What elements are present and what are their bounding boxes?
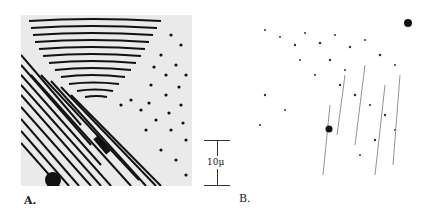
micrograph-a-image <box>21 15 192 186</box>
panel-b-label: B. <box>239 192 251 205</box>
panel-a-label: A. <box>24 194 36 207</box>
scale-bar-label: 10μ <box>207 157 224 167</box>
micrograph-panel-b <box>245 15 415 186</box>
scale-bar-upper-line <box>217 141 218 156</box>
scale-bar: 10μ <box>204 140 230 186</box>
scale-bar-bottom-tick <box>204 185 230 186</box>
micrograph-b-image <box>245 15 415 186</box>
micrograph-panel-a <box>21 15 192 186</box>
scale-bar-lower-line <box>217 169 218 185</box>
